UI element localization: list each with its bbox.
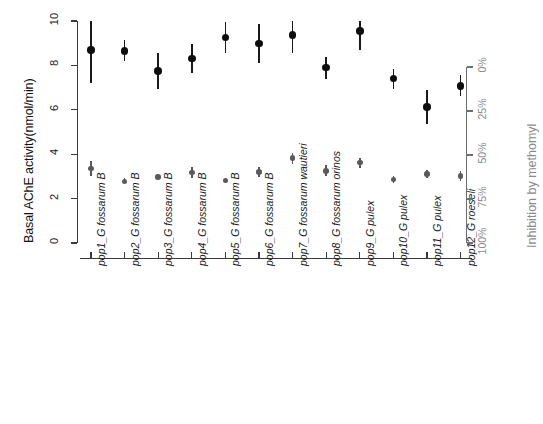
data-point	[256, 169, 262, 175]
y-axis-tick	[71, 198, 77, 199]
y-axis-tick-label: 10	[48, 8, 60, 30]
data-point	[122, 179, 128, 185]
data-point	[391, 177, 397, 183]
x-axis-tick-label: pop6_G fossarum B	[263, 173, 275, 266]
data-point	[222, 34, 230, 42]
y-axis-tick	[71, 20, 77, 21]
y-axis-tick-label: 2	[48, 186, 60, 208]
y-axis-tick-label: 6	[48, 97, 60, 119]
x-axis-tick	[225, 252, 226, 258]
y-axis-right-tick	[467, 66, 473, 67]
y-axis-right-tick	[467, 198, 473, 199]
x-axis-tick	[258, 252, 259, 258]
x-axis-tick	[292, 252, 293, 258]
data-point	[424, 171, 430, 177]
x-axis-tick-label: pop8_G fossarum orinos	[330, 151, 342, 266]
y-axis-right-tick-label: 50%	[476, 138, 488, 168]
data-point	[356, 27, 364, 35]
y-axis-left-line	[77, 21, 78, 243]
data-point	[255, 40, 263, 48]
data-point	[423, 103, 431, 111]
y-axis-right-tick	[467, 154, 473, 155]
y-axis-right-tick	[467, 110, 473, 111]
data-point	[322, 64, 330, 72]
x-axis-tick-label: pop4_G fossarum B	[196, 173, 208, 266]
x-axis-tick-label: pop2_G fossarum B	[129, 173, 141, 266]
y-axis-right-tick-label: 0%	[476, 50, 488, 80]
y-axis-tick	[71, 109, 77, 110]
data-point	[188, 55, 196, 63]
x-axis-tick	[359, 252, 360, 258]
x-axis-tick	[326, 252, 327, 258]
x-axis-tick-label: pop10_G pulex	[397, 195, 409, 266]
x-axis-tick-label: pop9_G pulex	[364, 201, 376, 266]
x-axis-tick-label: pop5_G fossarum B	[229, 173, 241, 266]
data-point	[189, 170, 195, 176]
y-axis-right-tick	[467, 242, 473, 243]
x-axis-tick-label: pop3_G fossarum B	[162, 173, 174, 266]
data-point	[390, 75, 398, 83]
y-axis-tick	[71, 154, 77, 155]
data-point	[457, 82, 465, 90]
x-axis-tick	[191, 252, 192, 258]
x-axis-tick	[393, 252, 394, 258]
data-point	[154, 67, 162, 75]
data-point	[223, 178, 229, 184]
data-point	[290, 155, 296, 161]
y-axis-tick	[71, 65, 77, 66]
y-axis-tick-label: 8	[48, 52, 60, 74]
x-axis-tick-label: pop7_G fossarum wautieri	[297, 143, 309, 266]
data-point	[357, 160, 363, 166]
data-point	[323, 168, 329, 174]
y-axis-right-tick-label: 100%	[476, 226, 488, 256]
data-point	[121, 47, 129, 55]
data-point	[155, 174, 161, 180]
y-axis-right-tick-label: 75%	[476, 182, 488, 212]
data-point	[458, 173, 464, 179]
x-axis-tick	[460, 252, 461, 258]
x-axis-tick	[426, 252, 427, 258]
data-point	[87, 46, 95, 54]
data-point	[88, 166, 94, 172]
x-axis-tick-label: pop11_G pulex	[431, 196, 443, 266]
x-axis-tick-label: pop1_G fossarum B	[95, 173, 107, 266]
y-axis-tick-label: 0	[48, 230, 60, 252]
data-point	[289, 31, 297, 39]
error-bar	[359, 21, 361, 50]
x-axis-tick	[90, 252, 91, 258]
y-axis-tick-label: 4	[48, 141, 60, 163]
y-axis-tick	[71, 242, 77, 243]
x-axis-tick	[124, 252, 125, 258]
y-axis-right-tick-label: 25%	[476, 94, 488, 124]
x-axis-tick	[158, 252, 159, 258]
